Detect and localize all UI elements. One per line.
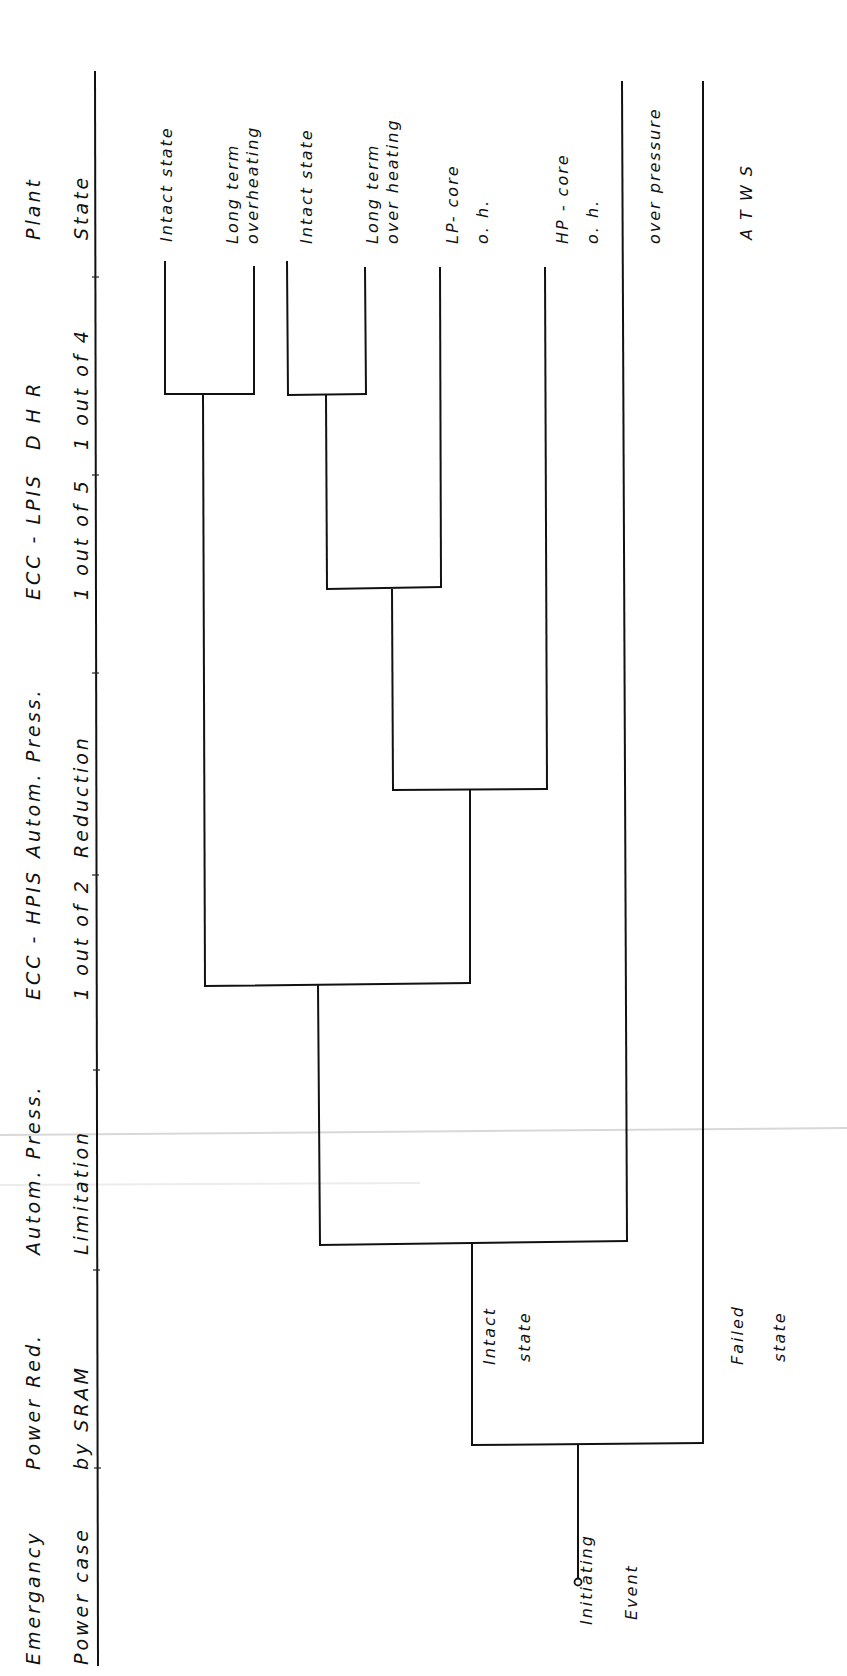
scan-artifact — [0, 1128, 847, 1135]
end-state-long-term-2-line2: over heating — [383, 118, 402, 244]
branch-labels: Intact state Failed state — [480, 1305, 789, 1365]
column-header-line2: 1 out of 2 — [70, 878, 92, 1000]
column-header-autom-press-limitation: Autom. Press. Limitation — [22, 1085, 92, 1258]
column-header-line2: State — [70, 175, 92, 240]
column-header-line1: Plant — [22, 177, 44, 240]
column-header-line2: 1 out of 4 — [70, 328, 92, 450]
end-state-long-term-1-line1: Long term — [223, 144, 242, 244]
column-header-line1: Power Red. — [22, 1333, 44, 1470]
end-state-long-term-1-line2: overheating — [243, 126, 262, 244]
end-state-lp-core-line1: LP- core — [443, 164, 462, 244]
column-header-power-reduction: Power Red. by SRAM — [22, 1333, 92, 1470]
column-header-line2: 1 out of 5 — [70, 478, 92, 600]
branch-intact-line1: Intact — [480, 1307, 499, 1365]
end-state-lp-core-line2: o. h. — [473, 199, 492, 244]
column-header-line2: Power case — [70, 1527, 92, 1665]
initiating-event-label: Initiating Event — [577, 1534, 641, 1625]
end-state-labels: Intact state Long term overheating Intac… — [157, 107, 756, 244]
branch-failed-line2: state — [770, 1311, 789, 1362]
event-tree-diagram: Emergancy Power case Power Red. by SRAM … — [0, 0, 847, 1676]
column-header-line2: Limitation — [70, 1130, 92, 1255]
column-header-emergency-power: Emergancy Power case — [22, 1527, 92, 1665]
end-state-intact-1: Intact state — [157, 126, 176, 242]
column-header-ecc-lpis: ECC - LPIS 1 out of 5 — [22, 473, 92, 600]
end-state-hp-core-line2: o. h. — [583, 199, 602, 244]
branch-intact-line2: state — [515, 1311, 534, 1362]
column-header-plant-state: Plant State — [22, 175, 92, 240]
scan-artifact — [0, 1183, 420, 1185]
end-state-atws: A T W S — [737, 164, 756, 241]
header-rule — [92, 72, 101, 1665]
end-state-overpressure: over pressure — [645, 107, 664, 244]
event-tree-branches — [165, 82, 703, 1586]
column-header-line1: ECC - HPIS — [22, 869, 44, 1000]
column-header-line1: ECC - LPIS — [22, 473, 44, 600]
column-header-line1: Emergancy — [22, 1531, 44, 1665]
column-header-line2: by SRAM — [70, 1365, 92, 1470]
column-header-line1: Autom. Press. — [22, 688, 44, 861]
initiating-event-line2: Event — [622, 1564, 641, 1620]
column-header-dhr: D H R 1 out of 4 — [22, 328, 92, 450]
end-state-hp-core-line1: HP - core — [553, 153, 572, 244]
column-header-line2: Reduction — [70, 735, 92, 858]
column-header-line1: D H R — [22, 381, 44, 450]
branch-failed-line1: Failed — [728, 1305, 747, 1365]
column-header-autom-press-reduction: Autom. Press. Reduction — [22, 688, 92, 861]
column-header-line1: Autom. Press. — [22, 1085, 44, 1258]
end-state-intact-2: Intact state — [297, 128, 316, 244]
end-state-long-term-2-line1: Long term — [363, 144, 382, 244]
column-header-ecc-hpis: ECC - HPIS 1 out of 2 — [22, 869, 92, 1000]
initiating-event-line1: Initiating — [577, 1534, 596, 1625]
